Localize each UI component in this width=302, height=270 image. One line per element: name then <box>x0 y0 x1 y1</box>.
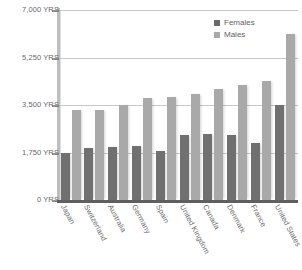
x-axis-label: Spain <box>154 203 171 225</box>
bar-females <box>132 146 141 200</box>
bar-males <box>72 110 81 200</box>
legend-label-females: Females <box>224 18 255 27</box>
x-axis-label: Denmark <box>225 203 248 235</box>
bar-chart: 0 YRS1,750 YRS3,500 YRS5,250 YRS7,000 YR… <box>0 0 302 270</box>
x-axis-labels: JapanSwitzerlandAustraliaGermanySpainUni… <box>60 203 302 270</box>
bar-group <box>180 10 204 200</box>
x-axis-label: United States <box>273 203 302 248</box>
y-axis-tick-label: 7,000 YRS <box>0 6 59 14</box>
y-axis-tick-label: 0 YRS <box>0 196 59 204</box>
bar-females <box>251 143 260 200</box>
legend-label-males: Males <box>224 30 245 39</box>
bar-group <box>108 10 132 200</box>
bar-group <box>84 10 108 200</box>
legend-swatch-females-icon <box>214 20 220 26</box>
y-axis-tick-label: 1,750 YRS <box>0 149 59 157</box>
legend-item-females: Females <box>214 17 294 28</box>
x-axis-label: Canada <box>201 203 222 231</box>
bar-females <box>180 135 189 200</box>
legend-swatch-males-icon <box>214 32 220 38</box>
y-axis-tick-label: 3,500 YRS <box>0 101 59 109</box>
x-axis-label: France <box>249 203 268 228</box>
bar-females <box>203 134 212 201</box>
y-axis-tick-label: 5,250 YRS <box>0 54 59 62</box>
x-axis-label: Germany <box>130 203 153 235</box>
bar-males <box>286 34 295 200</box>
chart-legend: Females Males <box>214 17 294 41</box>
bar-males <box>238 85 247 200</box>
bar-males <box>167 97 176 200</box>
bar-females <box>275 105 284 200</box>
bar-males <box>119 105 128 200</box>
bar-males <box>143 98 152 200</box>
x-axis-label: Switzerland <box>82 203 109 242</box>
bar-males <box>191 94 200 200</box>
bar-males <box>95 110 104 200</box>
bar-females <box>227 135 236 200</box>
bar-females <box>108 147 117 200</box>
bar-males <box>262 81 271 200</box>
bar-group <box>156 10 180 200</box>
legend-item-males: Males <box>214 29 294 40</box>
bar-females <box>61 153 70 201</box>
x-axis-label: Australia <box>106 203 128 234</box>
bar-males <box>214 89 223 200</box>
bar-females <box>156 151 165 200</box>
bar-females <box>84 148 93 200</box>
bar-group <box>61 10 85 200</box>
x-axis-label: Japan <box>59 203 77 226</box>
bar-group <box>132 10 156 200</box>
